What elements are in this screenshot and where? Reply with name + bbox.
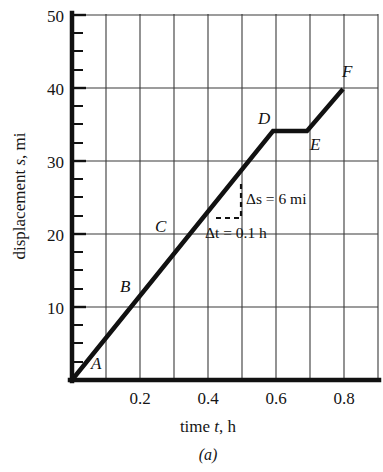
delta-t-label: Δt = 0.1 h <box>205 224 267 241</box>
y-axis-title-suffix: , mi <box>10 132 29 159</box>
x-tick-label: 0.6 <box>265 389 286 408</box>
point-label-F: F <box>341 62 353 81</box>
x-axis-title-prefix: time <box>180 417 214 436</box>
y-tick-label: 40 <box>47 80 64 99</box>
displacement-time-figure: 50 40 30 20 10 0.2 0.4 0.6 0.8 A B C D E… <box>0 0 383 472</box>
point-label-A: A <box>90 354 102 373</box>
x-tick-label: 0.2 <box>129 389 150 408</box>
y-axis-title-prefix: displacement <box>10 166 29 260</box>
x-tick-label: 0.8 <box>333 389 354 408</box>
figure-caption: (a) <box>199 446 218 464</box>
point-label-C: C <box>155 217 167 236</box>
y-tick-label: 20 <box>47 226 64 245</box>
point-label-E: E <box>309 135 321 154</box>
y-tick-label: 10 <box>47 299 64 318</box>
point-label-D: D <box>257 109 271 128</box>
x-tick-label: 0.4 <box>197 389 219 408</box>
y-axis-title: displacement s, mi <box>10 132 29 259</box>
point-label-B: B <box>120 277 131 296</box>
x-axis-title-suffix: , h <box>219 417 237 436</box>
delta-s-label: Δs = 6 mi <box>246 190 307 207</box>
y-tick-label: 50 <box>47 7 64 26</box>
y-tick-label: 30 <box>47 153 64 172</box>
chart-svg: 50 40 30 20 10 0.2 0.4 0.6 0.8 A B C D E… <box>0 0 383 472</box>
x-axis-title: time t, h <box>180 417 237 436</box>
